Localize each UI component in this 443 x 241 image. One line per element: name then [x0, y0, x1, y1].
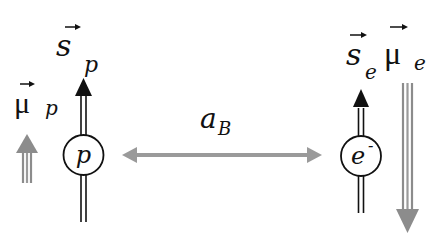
proton-moment-subscript: p — [45, 96, 58, 120]
proton-spin-subscript: p — [84, 52, 98, 77]
electron-group: e - s e μ e — [341, 24, 426, 233]
proton-moment-arrow-icon — [16, 134, 38, 183]
proton-spin-arrowhead-icon — [75, 78, 92, 96]
proton-spin-label: s p — [56, 24, 98, 77]
vector-arrow-icon — [402, 24, 408, 30]
electron-spin-arrowhead-icon — [353, 89, 369, 107]
proton-moment-label: μ p — [14, 81, 58, 120]
electron-charge-superscript: - — [368, 136, 373, 155]
hydrogen-diagram: p s p μ p a B — [0, 0, 443, 241]
proton-label: p — [76, 141, 91, 169]
separation-arrow-icon — [122, 147, 322, 163]
electron-moment-subscript: e — [414, 51, 426, 75]
proton-group: p s p μ p — [14, 24, 104, 222]
electron-label: e — [351, 142, 365, 170]
proton-spin-symbol: s — [56, 28, 71, 63]
vector-arrow-icon — [75, 24, 81, 30]
separation-group: a B — [122, 102, 322, 163]
electron-moment-label: μ e — [384, 24, 426, 75]
proton-moment-symbol: μ — [14, 86, 30, 119]
vector-arrow-icon — [361, 32, 367, 38]
separation-subscript: B — [217, 118, 231, 139]
electron-moment-symbol: μ — [384, 35, 401, 71]
separation-symbol: a — [200, 102, 217, 135]
electron-moment-arrow-icon — [396, 83, 419, 233]
electron-spin-subscript: e — [365, 60, 377, 84]
electron-spin-symbol: s — [346, 37, 361, 72]
vector-arrow-icon — [29, 81, 35, 87]
electron-spin-label: s e — [346, 32, 377, 84]
